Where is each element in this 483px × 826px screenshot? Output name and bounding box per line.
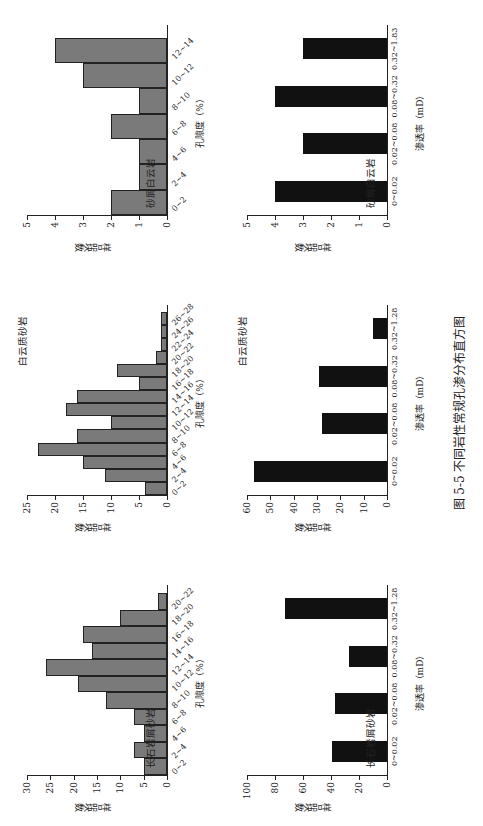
y-tick-label: 4: [50, 222, 60, 228]
x-axis-title: 渗透率（mD）: [413, 306, 426, 496]
y-tick: [167, 775, 168, 780]
y-tick-label: 30: [312, 502, 322, 513]
histogram-bar: [55, 38, 167, 63]
y-tick-label: 0: [162, 502, 172, 508]
y-tick-label: 50: [265, 502, 275, 513]
y-tick-label: 25: [22, 502, 32, 513]
y-tick-label: 3: [298, 222, 308, 228]
y-tick: [247, 215, 248, 220]
x-tick-label: 0.02~0.08: [390, 683, 399, 725]
x-tick-label: 10~12: [170, 62, 196, 88]
histogram-bar: [156, 351, 167, 364]
figure-caption: 图 5-5 不同岩性常规孔渗分布直方图: [450, 0, 467, 826]
bar: [275, 86, 387, 107]
y-tick: [364, 495, 365, 500]
histogram-bar: [161, 312, 167, 325]
y-tick: [27, 495, 28, 500]
y-axis-title: 样品块数: [295, 521, 331, 534]
bar: [319, 366, 387, 387]
x-tick-label: 0.08~0.32: [390, 635, 399, 677]
y-tick-label: 2: [106, 222, 116, 228]
y-tick: [27, 215, 28, 220]
y-tick-label: 30: [22, 782, 32, 793]
x-tick-label: 0.02~0.08: [390, 403, 399, 445]
y-tick: [97, 775, 98, 780]
histogram-bar: [145, 482, 167, 495]
chart-title: 砂屑白云岩: [143, 158, 157, 208]
histogram-bar: [161, 325, 167, 338]
y-tick-label: 40: [289, 502, 299, 513]
x-tick-label: 8~10: [170, 91, 192, 113]
plot-area: 01020304050600~0.020.02~0.080.08~0.320.3…: [247, 305, 388, 496]
y-tick-label: 15: [92, 782, 102, 793]
histogram-bar: [105, 469, 167, 482]
y-tick: [387, 215, 388, 220]
y-tick-label: 5: [134, 502, 144, 508]
x-tick-label: 2~4: [170, 466, 188, 484]
y-tick-label: 10: [115, 782, 125, 793]
x-axis-title: 渗透率（mD）: [413, 26, 426, 216]
bar: [285, 598, 387, 619]
y-tick-label: 20: [335, 502, 345, 513]
y-tick: [317, 495, 318, 500]
x-tick-label: 8~10: [170, 688, 192, 710]
histogram-bar: [139, 88, 167, 113]
x-axis-title: 孔隙度（%）: [193, 26, 206, 216]
y-tick-label: 0: [162, 782, 172, 788]
x-axis-title: 孔隙度（%）: [193, 586, 206, 776]
y-tick-label: 3: [78, 222, 88, 228]
y-tick-label: 20: [69, 782, 79, 793]
histogram-bar: [66, 403, 167, 416]
chart-panel: 样品块数05101520250~22~44~66~88~1010~1212~14…: [15, 291, 205, 536]
x-tick-label: 0.32~1.28: [390, 588, 399, 630]
bar: [373, 318, 387, 339]
chart-panel: 样品块数0123450~0.020.02~0.080.08~0.320.32~1…: [235, 11, 425, 256]
x-tick-label: 0~0.02: [390, 736, 399, 766]
histogram-bar: [111, 114, 167, 139]
y-tick-label: 0: [382, 502, 392, 508]
y-tick-label: 4: [270, 222, 280, 228]
y-tick-label: 0: [382, 782, 392, 788]
y-tick: [120, 775, 121, 780]
chart-title: 砂屑白云岩: [363, 158, 377, 208]
x-tick-label: 0.08~0.32: [390, 75, 399, 117]
y-tick: [303, 775, 304, 780]
bar: [332, 741, 387, 762]
y-tick-label: 15: [78, 502, 88, 513]
y-tick: [340, 495, 341, 500]
histogram-bar: [106, 692, 167, 709]
y-tick-label: 0: [382, 222, 392, 228]
y-tick-label: 100: [242, 782, 252, 799]
y-tick: [387, 775, 388, 780]
figure: 样品块数0510152025300~22~44~66~88~1010~1212~…: [0, 0, 483, 826]
x-tick-label: 0~2: [170, 479, 188, 497]
x-tick-label: 0.02~0.08: [390, 123, 399, 165]
y-tick: [50, 775, 51, 780]
x-tick-label: 0.08~0.32: [390, 355, 399, 397]
y-tick-label: 5: [139, 782, 149, 788]
histogram-bar: [92, 643, 167, 660]
histogram-bar: [77, 430, 167, 443]
chart-panel: 样品块数0123450~22~44~66~88~1010~1212~14孔隙度（…: [15, 11, 205, 256]
histogram-bar: [120, 610, 167, 627]
y-axis-title: 样品块数: [295, 801, 331, 814]
y-tick: [111, 495, 112, 500]
x-tick-label: 2~4: [170, 742, 188, 760]
histogram-bar: [161, 338, 167, 351]
chart-title: 长石岩屑砂岩: [363, 708, 377, 768]
plot-area: 05101520250~22~44~66~88~1010~1212~1414~1…: [27, 305, 168, 496]
chart-panel: 样品块数01020304050600~0.020.02~0.080.08~0.3…: [235, 291, 425, 536]
y-tick: [387, 495, 388, 500]
y-tick: [55, 495, 56, 500]
histogram-bar: [78, 676, 167, 693]
histogram-bar: [83, 456, 167, 469]
histogram-bar: [38, 443, 167, 456]
y-tick-label: 80: [270, 782, 280, 793]
y-tick-label: 40: [326, 782, 336, 793]
x-tick-label: 0~2: [170, 758, 188, 776]
y-tick: [275, 775, 276, 780]
bar: [303, 133, 387, 154]
y-tick-label: 1: [354, 222, 364, 228]
histogram-bar: [77, 390, 167, 403]
histogram-bar: [117, 364, 167, 377]
